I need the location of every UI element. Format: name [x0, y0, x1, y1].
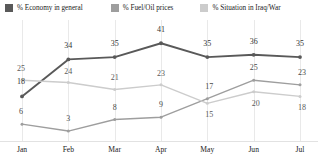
x-axis-tick-label: Feb [63, 145, 74, 154]
data-label: 3 [66, 115, 70, 123]
x-axis-tick-label: Jun [248, 145, 259, 154]
series-marker [205, 55, 209, 59]
data-label: 6 [19, 108, 23, 116]
series-marker [67, 130, 70, 133]
series-marker [159, 41, 163, 45]
data-label: 36 [250, 38, 258, 46]
data-label: 24 [64, 68, 72, 76]
data-label: 18 [298, 104, 306, 112]
x-axis: JanFebMarAprMayJunJul [0, 143, 318, 163]
series-marker [113, 88, 116, 91]
chart-container: % Economy in general % Fuel/Oil prices %… [0, 0, 318, 163]
x-axis-tick-label: May [200, 145, 214, 154]
series-marker [160, 116, 163, 119]
series-marker [66, 58, 70, 62]
data-label: 41 [157, 26, 165, 34]
data-label: 8 [113, 104, 117, 112]
legend-label-iraq: % Situation in Iraq/War [212, 4, 280, 12]
data-label: 35 [111, 40, 119, 48]
series-marker [252, 79, 255, 82]
data-label: 17 [205, 83, 213, 91]
data-label: 23 [157, 70, 165, 78]
series-marker [160, 83, 163, 86]
series-marker [206, 102, 209, 105]
series-marker [20, 95, 24, 99]
x-axis-tick-label: Apr [155, 145, 167, 154]
legend-swatch-icon-fuel [111, 4, 119, 12]
legend-swatch-icon-economy [5, 4, 13, 12]
legend-swatch-icon-iraq [200, 4, 208, 12]
series-lines [0, 20, 318, 142]
series-marker [299, 83, 302, 86]
series-marker [299, 95, 302, 98]
series-marker [298, 55, 302, 59]
data-label: 25 [250, 64, 258, 72]
data-label: 25 [17, 65, 25, 73]
x-axis-tick-label: Jan [17, 145, 27, 154]
plot-area: 18343541353635638917252325242123152018 [0, 20, 318, 142]
series-marker [113, 55, 117, 59]
series-marker [113, 118, 116, 121]
data-label: 20 [252, 100, 260, 108]
data-label: 9 [159, 101, 163, 109]
data-label: 15 [205, 111, 213, 119]
data-label: 18 [17, 78, 25, 86]
legend-label-fuel: % Fuel/Oil prices [123, 4, 174, 12]
series-marker [252, 53, 256, 57]
series-marker [252, 90, 255, 93]
data-label: 34 [64, 42, 72, 50]
x-axis-tick-label: Mar [108, 145, 121, 154]
legend-label-economy: % Economy in general [17, 4, 83, 12]
legend-item-economy-in-general: % Economy in general [5, 4, 83, 12]
chart-legend: % Economy in general % Fuel/Oil prices %… [0, 0, 318, 16]
data-label: 21 [111, 74, 119, 82]
data-label: 23 [298, 69, 306, 77]
data-label: 35 [203, 40, 211, 48]
series-marker [21, 123, 24, 126]
x-axis-tick-label: Jul [296, 145, 305, 154]
legend-item-fuel-oil-prices: % Fuel/Oil prices [111, 4, 174, 12]
legend-item-situation-in-iraq-war: % Situation in Iraq/War [200, 4, 280, 12]
series-marker [206, 97, 209, 100]
series-marker [67, 81, 70, 84]
data-label: 35 [296, 40, 304, 48]
